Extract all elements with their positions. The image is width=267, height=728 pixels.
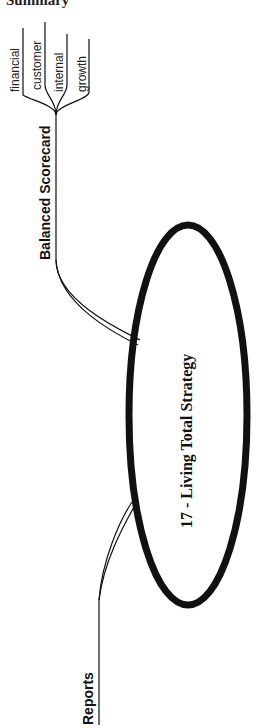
- branch-internal[interactable]: internal: [52, 53, 66, 92]
- center-node-label[interactable]: 17 - Living Total Strategy: [178, 354, 196, 528]
- branch-financial[interactable]: financial: [8, 48, 22, 92]
- branch-reports[interactable]: Reports: [80, 672, 96, 725]
- branch-customer[interactable]: customer: [30, 41, 44, 90]
- branch-growth[interactable]: growth: [75, 56, 89, 92]
- mindmap-connectors: [0, 0, 267, 728]
- branch-balanced-scorecard[interactable]: Balanced Scorecard: [37, 125, 53, 260]
